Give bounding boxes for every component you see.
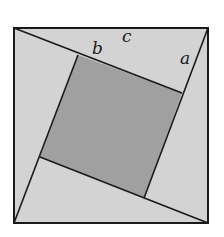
label-c: c [122,26,132,46]
pythagorean-diagram: b c a [0,0,224,237]
label-b: b [92,38,103,58]
label-a: a [180,48,190,68]
